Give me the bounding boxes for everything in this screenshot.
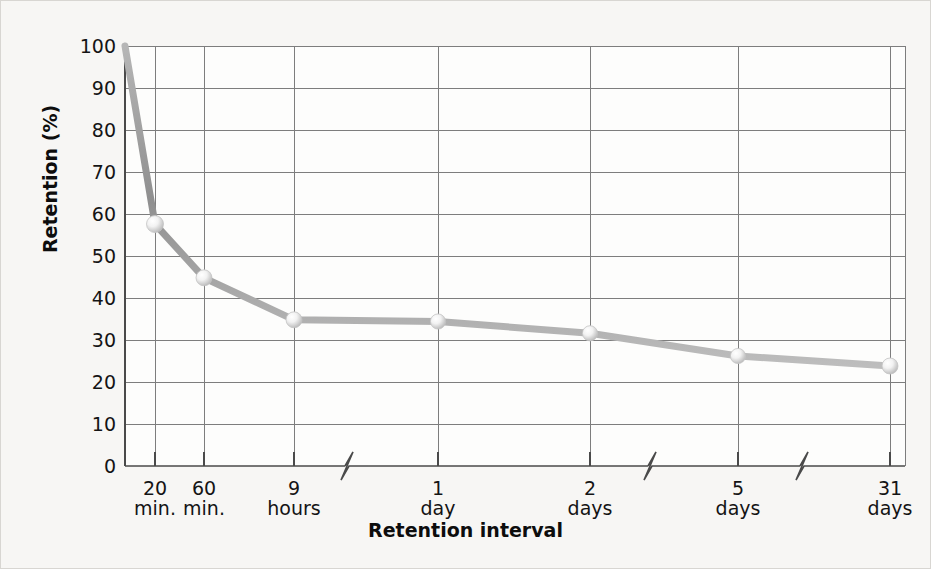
x-tick-9hours-unit: hours <box>267 498 320 518</box>
x-tick-9hours: 9 hours <box>267 478 320 518</box>
data-point-60min <box>196 270 212 286</box>
x-tick-1day-value: 1 <box>421 478 456 498</box>
x-tick-2days-unit: days <box>568 498 613 518</box>
y-tick-30: 30 <box>60 331 116 350</box>
y-tick-80: 80 <box>60 121 116 140</box>
data-point-5days <box>730 348 745 363</box>
y-tick-0: 0 <box>60 457 116 476</box>
y-tick-70: 70 <box>60 163 116 182</box>
data-point-9hours <box>286 312 302 328</box>
x-tick-31days-unit: days <box>868 498 913 518</box>
x-tick-60min: 60 min. <box>183 478 225 518</box>
x-axis-title: Retention interval <box>0 519 931 541</box>
x-tick-9hours-value: 9 <box>267 478 320 498</box>
x-tick-31days-value: 31 <box>868 478 913 498</box>
forgetting-curve-figure: 100 90 80 70 60 50 40 30 20 10 0 Retenti… <box>0 0 931 569</box>
y-axis-title: Retention (%) <box>39 89 61 269</box>
x-tick-60min-value: 60 <box>183 478 225 498</box>
data-point-20min <box>147 216 164 233</box>
y-tick-90: 90 <box>60 79 116 98</box>
x-tick-2days-value: 2 <box>568 478 613 498</box>
y-tick-50: 50 <box>60 247 116 266</box>
x-tick-5days: 5 days <box>716 478 761 518</box>
y-tick-60: 60 <box>60 205 116 224</box>
x-tick-1day-unit: day <box>421 498 456 518</box>
y-tick-10: 10 <box>60 415 116 434</box>
y-tick-100: 100 <box>60 37 116 56</box>
y-tick-40: 40 <box>60 289 116 308</box>
x-tick-20min: 20 min. <box>134 478 176 518</box>
x-tick-2days: 2 days <box>568 478 613 518</box>
x-tick-1day: 1 day <box>421 478 456 518</box>
x-tick-20min-value: 20 <box>134 478 176 498</box>
data-point-31days <box>882 358 898 374</box>
x-tick-5days-unit: days <box>716 498 761 518</box>
x-tick-5days-value: 5 <box>716 478 761 498</box>
data-point-1day <box>430 314 445 329</box>
data-point-2days <box>582 326 597 341</box>
x-tick-60min-unit: min. <box>183 498 225 518</box>
y-axis-tick-labels: 100 90 80 70 60 50 40 30 20 10 0 <box>56 0 116 569</box>
y-tick-20: 20 <box>60 373 116 392</box>
x-tick-31days: 31 days <box>868 478 913 518</box>
x-tick-20min-unit: min. <box>134 498 176 518</box>
